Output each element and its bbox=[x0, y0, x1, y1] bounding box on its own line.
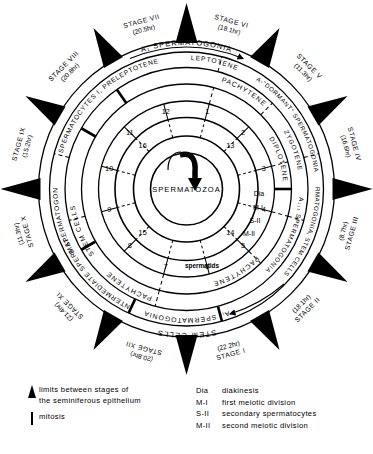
cell-number: 1 bbox=[205, 107, 209, 116]
stage-label: STAGE VII(20.5hr) bbox=[123, 13, 163, 39]
legend-item-stage-limits: limits between stages of the seminiferou… bbox=[24, 385, 199, 406]
stage-label: STAGE IX(15.2hr) bbox=[11, 126, 36, 164]
legend-stage-limits-text: limits between stages of the seminiferou… bbox=[39, 385, 199, 406]
stage-label: STAGE VI(18.1hr) bbox=[211, 13, 249, 38]
legend-abbrev-m-ii: M-II second meiotic division bbox=[196, 421, 373, 432]
legend-line-1: limits between stages of bbox=[39, 385, 128, 394]
spermatogenesis-cycle-diagram: A₁ SPERMATOGONIA STEM CELLS SPERMATOCYTE… bbox=[0, 0, 373, 378]
cell-number: 16 bbox=[139, 141, 147, 150]
cell-number: 9 bbox=[107, 205, 111, 214]
legend-key-s-ii: S-II bbox=[196, 409, 222, 420]
stage-label: STAGE III(8.7hr) bbox=[335, 213, 359, 250]
stage-label: STAGE XI(21.4hr) bbox=[49, 291, 85, 327]
legend-text-dia: diakinesis bbox=[222, 386, 373, 397]
cell-number: 3 bbox=[262, 164, 266, 173]
legend-text-s-ii: secondary spermatocytes bbox=[222, 409, 373, 420]
ring-label-leptotene: LEPTOTENE bbox=[191, 54, 240, 71]
cell-number: 12 bbox=[162, 107, 170, 116]
cell-number: 8 bbox=[128, 241, 132, 250]
stage-label: STAGE VIII(20.8hr) bbox=[47, 49, 87, 89]
cell-number: 6 bbox=[205, 262, 209, 271]
cell-number: 10 bbox=[105, 164, 113, 173]
legend-abbrev-m-i: M-I first meiotic division bbox=[196, 398, 373, 409]
legend-key-m-ii: M-II bbox=[196, 421, 222, 432]
label-dia: Dia bbox=[254, 190, 265, 197]
figure-root: A₁ SPERMATOGONIA STEM CELLS SPERMATOCYTE… bbox=[0, 0, 373, 454]
bar-marker-icon bbox=[24, 412, 39, 425]
ring-label-diplotene: DIPLOTENE bbox=[268, 135, 289, 182]
stage-label: STAGE I(22.2hr) bbox=[213, 338, 246, 361]
stage-label: STAGE V(11.3hr) bbox=[289, 52, 324, 87]
cell-number: 13 bbox=[226, 141, 234, 150]
stage-label: STAGE II(18.1hr) bbox=[287, 290, 321, 324]
legend-text-m-i: first meiotic division bbox=[222, 398, 373, 409]
cell-number: 5 bbox=[241, 241, 245, 250]
legend-mitosis-text: mitosis bbox=[39, 412, 199, 423]
cell-number: 11 bbox=[126, 128, 134, 137]
label-m-ii: M-II bbox=[243, 230, 255, 237]
cell-number: 2 bbox=[241, 128, 245, 137]
center-label-spermatozoa: SPERMATOZOA bbox=[152, 185, 221, 194]
ring-label-dormant-spermatogonia: A-"DORMANT" SPERMATOGONIA bbox=[255, 75, 320, 173]
legend-abbrev-dia: Dia diakinesis bbox=[196, 386, 373, 397]
label-s-ii: S-II bbox=[250, 217, 261, 224]
legend-line-2: the seminiferous epithelium bbox=[39, 396, 141, 405]
legend-key-m-i: M-I bbox=[196, 398, 222, 409]
triangle-marker-icon bbox=[24, 385, 39, 398]
ring-label-pachytene-lower: PACHYTENE bbox=[212, 255, 261, 288]
stage-label: STAGE IV(16.6hr) bbox=[337, 126, 362, 164]
legend-key-dia: Dia bbox=[196, 386, 222, 397]
legend-abbrev-s-ii: S-II secondary spermatocytes bbox=[196, 409, 373, 420]
label-spermatids: spermatids bbox=[185, 262, 220, 270]
cell-number: 15 bbox=[139, 228, 147, 237]
cell-number: 7 bbox=[164, 262, 168, 271]
legend-text-m-ii: second meiotic division bbox=[222, 421, 373, 432]
cell-number: 14 bbox=[226, 228, 234, 237]
legend-item-mitosis: mitosis bbox=[24, 412, 199, 425]
stage-label: STAGE XII(20.8hr) bbox=[123, 340, 163, 365]
stage-label: STAGE X(11.3hr) bbox=[11, 215, 35, 250]
cell-number: 4 bbox=[262, 205, 266, 214]
ring-label-stem-cells-outer: STEM CELLS bbox=[156, 328, 217, 340]
legend: limits between stages of the seminiferou… bbox=[0, 378, 373, 454]
legend-right-column: Dia diakinesis M-I first meiotic divisio… bbox=[196, 378, 373, 431]
legend-left-column: limits between stages of the seminiferou… bbox=[24, 378, 199, 425]
